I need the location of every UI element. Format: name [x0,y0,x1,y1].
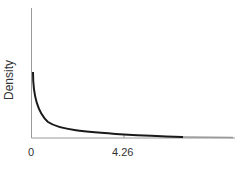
density-curve-tail [183,137,233,138]
density-chart [0,0,250,169]
density-curve [33,72,183,137]
y-axis-label: Density [2,60,16,100]
x-tick-label-4-26: 4.26 [112,146,133,158]
x-tick-label-0: 0 [28,146,34,158]
